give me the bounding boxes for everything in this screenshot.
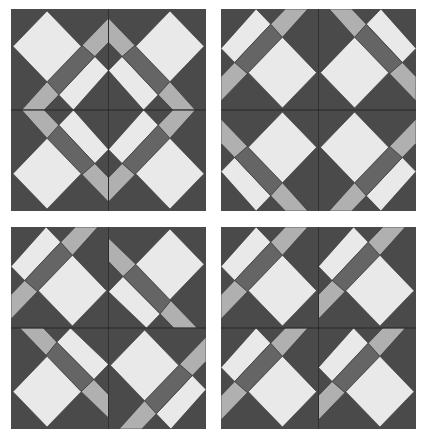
quadrant-br xyxy=(319,328,417,429)
quadrant-bl xyxy=(11,328,109,429)
quadrant-tl xyxy=(221,227,319,328)
quadrant-tr xyxy=(319,227,417,328)
quadrant-bl xyxy=(11,110,109,211)
quadrant-tr xyxy=(109,9,207,110)
panel-top-right xyxy=(221,9,416,211)
quadrant-bl xyxy=(221,110,319,211)
quadrant-tl xyxy=(11,9,109,110)
panel-bottom-right xyxy=(221,227,416,429)
quadrant-bl xyxy=(221,328,319,429)
quadrant-tr xyxy=(109,227,207,328)
quadrant-tr xyxy=(319,9,417,110)
quadrant-tl xyxy=(221,9,319,110)
panel-bottom-left xyxy=(11,227,206,429)
quadrant-br xyxy=(319,110,417,211)
quadrant-br xyxy=(109,328,207,429)
quadrant-br xyxy=(109,110,207,211)
quadrant-tl xyxy=(11,227,109,328)
panel-top-left xyxy=(11,9,206,211)
